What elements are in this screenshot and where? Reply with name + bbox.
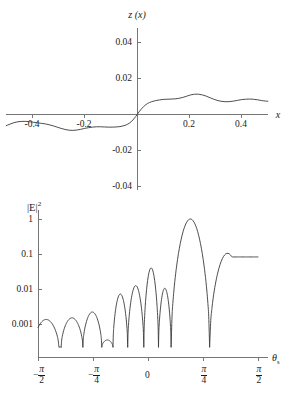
fraction-pi-over-4-right: π4 (201, 365, 208, 386)
top-plot-svg: 0.04 0.02 -0.02 -0.04 -0.4 -0.2 0.2 0.4 … (0, 0, 289, 196)
bottom-y-ticklabel-2: 0.01 (16, 284, 33, 294)
bottom-y-ticklabel-0: 1 (28, 214, 33, 224)
top-plot-panel: 0.04 0.02 -0.02 -0.04 -0.4 -0.2 0.2 0.4 … (0, 0, 289, 196)
bottom-ylabel-exponent: 2 (38, 200, 42, 208)
bottom-y-ticklabel-3: 0.001 (12, 319, 34, 329)
bottom-plot-curve (38, 219, 258, 347)
bottom-plot-panel: 1 0.1 0.01 0.001 |E|2 θs −π2 −π4 0 π4 π2 (0, 192, 289, 401)
denominator-3: 4 (201, 376, 208, 386)
top-x-ticklabel-2: 0.2 (183, 119, 195, 129)
bottom-x-ticklabel-zero: 0 (145, 370, 150, 380)
theta-subscript: s (277, 358, 280, 365)
fraction-pi-over-2-left: π2 (38, 365, 45, 386)
top-plot-ylabel: z (x) (127, 9, 146, 21)
bottom-y-ticklabel-1: 0.1 (21, 249, 33, 259)
denominator-1: 2 (38, 376, 45, 386)
bottom-x-ticklabel-neg-pi-2: −π2 (28, 365, 50, 386)
figure-container: 0.04 0.02 -0.02 -0.04 -0.4 -0.2 0.2 0.4 … (0, 0, 289, 401)
bottom-plot-ylabel: |E|2 (27, 200, 41, 213)
bottom-x-ticklabel-neg-pi-4: −π4 (83, 365, 105, 386)
top-plot-xlabel: x (275, 109, 281, 120)
top-x-ticklabel-3: 0.4 (235, 119, 247, 129)
fraction-pi-over-4-left: π4 (93, 365, 100, 386)
top-y-ticklabel-2: -0.02 (112, 145, 132, 155)
denominator-4: 2 (256, 376, 263, 386)
bottom-x-ticklabel-pi-4: π4 (197, 365, 211, 386)
top-y-ticklabel-0: 0.04 (115, 37, 132, 47)
top-x-ticklabel-0: -0.4 (24, 119, 39, 129)
bottom-x-ticklabel-pi-2: π2 (252, 365, 266, 386)
top-y-ticklabel-1: 0.02 (115, 73, 132, 83)
bottom-ylabel-base: |E| (27, 202, 38, 213)
denominator-2: 4 (93, 376, 100, 386)
bottom-plot-xlabel: θs (272, 352, 279, 365)
top-y-ticklabel-3: -0.04 (112, 181, 132, 191)
fraction-pi-over-2-right: π2 (256, 365, 263, 386)
